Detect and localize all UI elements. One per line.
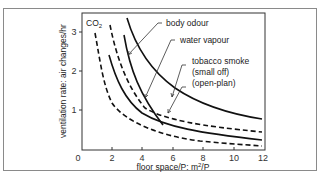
- x-tick-0: 0: [75, 153, 80, 163]
- y-tick-2: 2: [71, 66, 76, 76]
- co2-label: CO2: [86, 18, 103, 29]
- y-tick-1: 1: [71, 105, 76, 115]
- water-vapour-label: water vapour: [179, 35, 229, 45]
- tobacco-smoke-label: tobacco smoke: [192, 56, 249, 66]
- x-tick-12: 12: [258, 153, 268, 163]
- y-tick-3: 3: [71, 27, 76, 37]
- body-odour-label: body odour: [166, 18, 209, 28]
- x-axis-label: floor space/P: m2/P: [137, 162, 210, 172]
- y-axis-label: ventilation rate: air changes/hr: [58, 24, 68, 138]
- open-plan-label: (open-plan): [192, 78, 236, 88]
- body-odour-curve: [124, 35, 163, 125]
- chart: 3 2 1 0 2 4 6 8 10 12 floor space/P: m2/…: [0, 0, 323, 176]
- annotation-leaders: [128, 23, 186, 113]
- x-tick-10: 10: [229, 153, 239, 163]
- x-tick-2: 2: [109, 153, 114, 163]
- small-off-label: (small off): [192, 67, 229, 77]
